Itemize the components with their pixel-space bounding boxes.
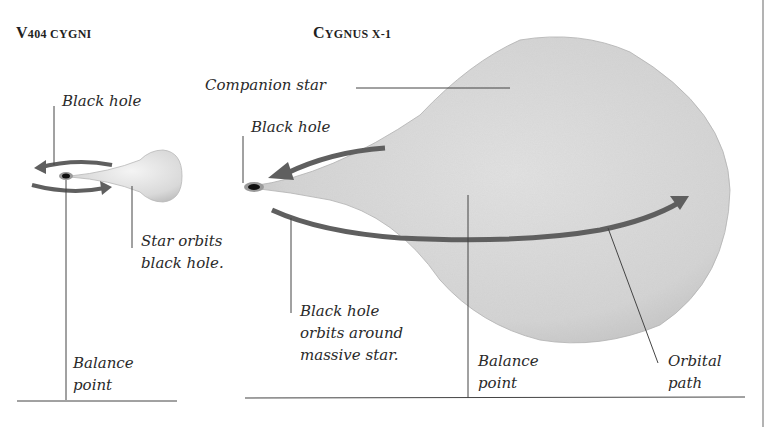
v404-cygni-title: V404 CYGNI xyxy=(16,24,92,42)
cygnus-balance-line2: point xyxy=(478,372,539,394)
orbital-path-line2: path xyxy=(668,372,722,394)
cygnus-x1-title: CYGNUS X-1 xyxy=(313,24,391,42)
v404-balance-point-label: Balance point xyxy=(73,352,134,396)
v404-star-orbits-line1: Star orbits xyxy=(141,230,224,252)
v404-balance-line2: point xyxy=(73,374,134,396)
v404-title-first: V xyxy=(16,24,28,41)
cygnus-balance-point-label: Balance point xyxy=(478,350,539,394)
bh-orbits-line3: massive star. xyxy=(300,344,403,366)
v404-balance-line1: Balance xyxy=(73,352,134,374)
bh-orbits-label: Black hole orbits around massive star. xyxy=(300,300,403,366)
v404-black-hole-label: Black hole xyxy=(62,90,141,112)
cygnus-balance-line1: Balance xyxy=(478,350,539,372)
orbital-path-line1: Orbital xyxy=(668,350,722,372)
cygnus-title-rest: YGNUS X-1 xyxy=(325,27,391,41)
v404-title-rest: 404 CYGNI xyxy=(28,27,92,41)
v404-star-orbits-label: Star orbits black hole. xyxy=(141,230,224,274)
cygnus-title-first: C xyxy=(313,24,325,41)
companion-star-label: Companion star xyxy=(205,74,326,96)
bh-orbits-line1: Black hole xyxy=(300,300,403,322)
cygnus-black-hole-label: Black hole xyxy=(251,116,330,138)
bh-orbits-line2: orbits around xyxy=(300,322,403,344)
v404-star-orbits-line2: black hole. xyxy=(141,252,224,274)
orbital-path-label: Orbital path xyxy=(668,350,722,394)
